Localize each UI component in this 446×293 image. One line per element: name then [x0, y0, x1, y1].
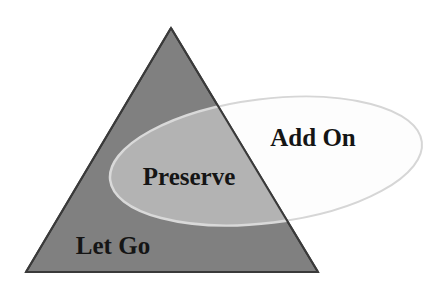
label-let-go: Let Go: [76, 232, 150, 259]
label-preserve: Preserve: [143, 163, 236, 190]
label-add-on: Add On: [270, 124, 356, 151]
venn-diagram: Add On Preserve Let Go: [0, 0, 446, 293]
diagram-canvas: Add On Preserve Let Go: [0, 0, 446, 293]
